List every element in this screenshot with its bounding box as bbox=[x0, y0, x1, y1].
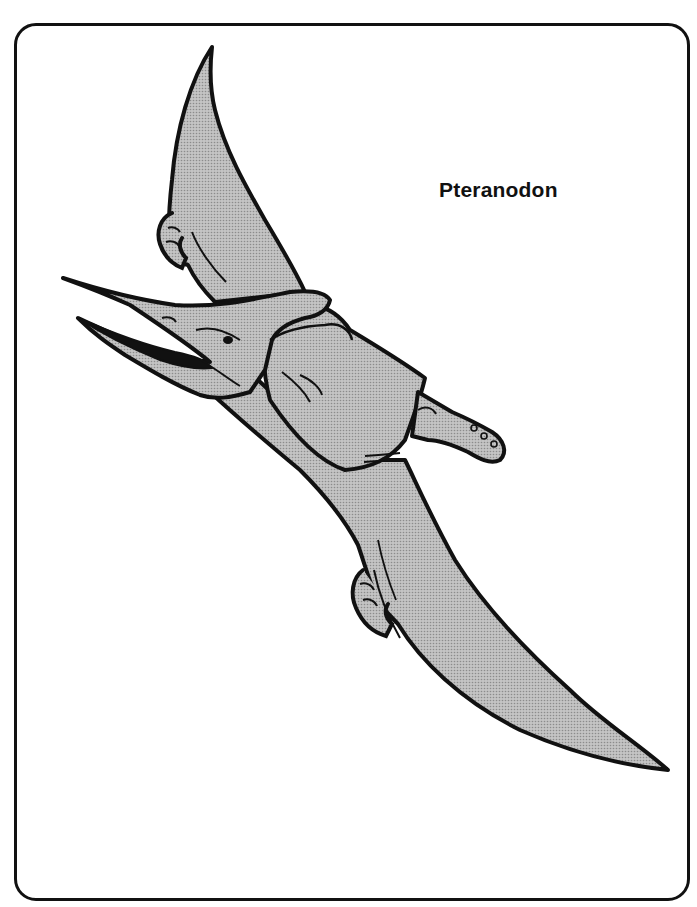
upper-wing bbox=[169, 47, 305, 302]
page-title: Pteranodon bbox=[439, 178, 558, 202]
eye bbox=[223, 336, 233, 344]
pteranodon-illustration bbox=[0, 0, 697, 907]
foot bbox=[412, 392, 504, 462]
